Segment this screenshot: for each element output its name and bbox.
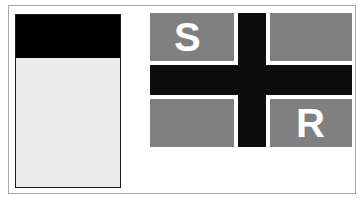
cross-horizontal-bar — [150, 65, 352, 95]
quadrant-bottom-right: R — [270, 99, 352, 147]
cross-flag-diagram: S R — [150, 13, 352, 147]
quadrant-top-left: S — [150, 13, 234, 61]
panel-header — [16, 15, 120, 58]
side-panel — [15, 14, 121, 188]
quadrant-bottom-left — [150, 99, 234, 147]
quadrant-top-right — [270, 13, 352, 61]
